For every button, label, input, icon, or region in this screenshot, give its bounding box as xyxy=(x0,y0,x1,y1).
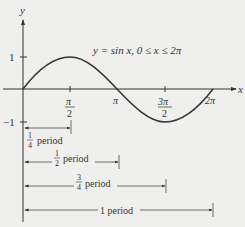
svg-text:4: 4 xyxy=(77,183,81,192)
three-quarter-period-label: period xyxy=(85,178,111,189)
sine-period-diagram: y x 1 −1 π 2 π 3π 2 2π y = sin x, 0 ≤ x … xyxy=(0,0,245,227)
one-period-label: 1 period xyxy=(100,205,133,216)
tick-label-pi: π xyxy=(113,95,119,106)
tick-label-pi-half-den: 2 xyxy=(67,108,72,119)
y-axis-label: y xyxy=(19,4,25,16)
svg-text:3: 3 xyxy=(77,173,81,182)
half-period-label: period xyxy=(63,153,89,164)
svg-text:4: 4 xyxy=(28,141,32,150)
quarter-period-label: period xyxy=(37,135,63,146)
svg-text:1: 1 xyxy=(55,149,59,158)
tick-label-1: 1 xyxy=(9,51,15,63)
svg-text:1: 1 xyxy=(28,131,32,140)
x-axis-label: x xyxy=(237,83,243,95)
tick-label-3pi-half-den: 2 xyxy=(162,108,167,119)
tick-label-pi-half-num: π xyxy=(66,96,72,107)
svg-text:2: 2 xyxy=(55,159,59,168)
tick-label-neg1: −1 xyxy=(3,116,15,128)
tick-label-3pi-half-num: 3π xyxy=(157,96,169,107)
equation-label: y = sin x, 0 ≤ x ≤ 2π xyxy=(92,44,182,56)
